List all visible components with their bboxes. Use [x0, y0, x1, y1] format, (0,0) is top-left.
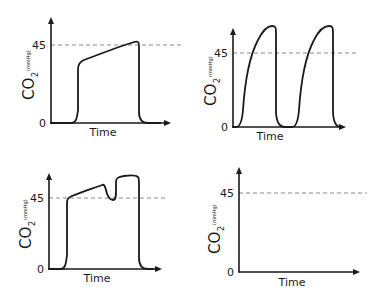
x-axis-label: Time — [83, 272, 111, 285]
svg-text:CO: CO — [17, 227, 35, 249]
y-axis-arrow-icon — [48, 17, 54, 24]
y-axis-label: CO 2 (mmHg) — [202, 56, 222, 106]
svg-text:2: 2 — [213, 78, 222, 83]
x-axis-label: Time — [89, 126, 117, 139]
y-axis-label: CO 2 (mmHg) — [17, 199, 37, 249]
capnogram-curve — [49, 175, 153, 269]
tick-label-0: 0 — [227, 266, 234, 279]
capnogram-curve — [233, 26, 341, 127]
svg-text:CO: CO — [202, 84, 220, 106]
svg-text:(mmHg): (mmHg) — [207, 56, 214, 77]
y-axis-arrow-icon — [230, 28, 236, 35]
tick-label-45: 45 — [220, 187, 234, 200]
panel-top-left: 45 0 Time CO 2 (mmHg) — [20, 17, 181, 139]
svg-text:2: 2 — [28, 221, 37, 226]
x-axis-arrow-icon — [353, 269, 360, 275]
svg-text:(mmHg): (mmHg) — [25, 50, 32, 71]
svg-text:(mmHg): (mmHg) — [211, 204, 218, 225]
tick-label-45: 45 — [30, 192, 44, 205]
x-axis-arrow-icon — [155, 266, 162, 272]
y-axis-arrow-icon — [46, 173, 52, 180]
tick-label-45: 45 — [214, 47, 228, 60]
x-axis-arrow-icon — [164, 120, 171, 126]
figure-canvas: 45 0 Time CO 2 (mmHg) 45 0 Time CO 2 (mm… — [0, 0, 382, 300]
y-axis-arrow-icon — [236, 167, 242, 174]
panel-bottom-left: 45 0 Time CO 2 (mmHg) — [17, 173, 166, 285]
svg-text:CO: CO — [20, 78, 38, 100]
tick-label-0: 0 — [221, 121, 228, 134]
tick-label-0: 0 — [39, 117, 46, 130]
svg-text:2: 2 — [31, 72, 40, 77]
y-axis-label: CO 2 (mmHg) — [20, 50, 40, 100]
y-axis-label: CO 2 (mmHg) — [206, 204, 226, 254]
x-axis-label: Time — [278, 276, 306, 289]
panel-top-right: 45 0 Time CO 2 (mmHg) — [202, 26, 356, 143]
panel-bottom-right: 45 0 Time CO 2 (mmHg) — [206, 167, 367, 289]
tick-label-45: 45 — [32, 39, 46, 52]
tick-label-0: 0 — [37, 263, 44, 276]
svg-text:2: 2 — [217, 226, 226, 231]
x-axis-label: Time — [256, 130, 284, 143]
svg-text:(mmHg): (mmHg) — [22, 199, 29, 220]
svg-text:CO: CO — [206, 232, 224, 254]
capnogram-curve — [51, 42, 160, 123]
